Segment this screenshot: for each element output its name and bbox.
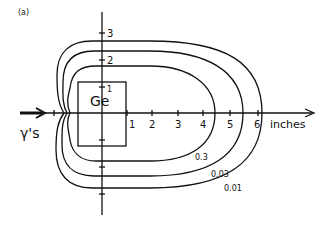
x-tick-label: 2	[149, 119, 155, 130]
diagram-canvas: γ's Ge 1 2 3 4 5 6 inches 1 2 3 0.3 0.03…	[0, 0, 330, 229]
x-tick-labels: 1 2 3 4 5 6	[129, 119, 260, 130]
beam-label: γ's	[20, 125, 39, 141]
y-tick-label: 3	[107, 28, 113, 39]
figure: (a)	[0, 0, 330, 229]
contour-0.01	[56, 41, 262, 188]
y-tick-labels: 1 2 3	[107, 28, 113, 94]
gamma-beam-arrow-icon	[20, 108, 45, 118]
contour-label-0.03: 0.03	[211, 170, 229, 179]
x-tick-label: 3	[175, 119, 181, 130]
y-tick-label: 2	[107, 55, 113, 66]
contour-labels: 0.3 0.03 0.01	[195, 153, 242, 193]
contour-label-0.01: 0.01	[224, 184, 242, 193]
y-tick-label: 1	[107, 85, 112, 94]
x-tick-label: 6	[254, 119, 260, 130]
contour-label-0.3: 0.3	[195, 153, 208, 162]
x-tick-label: 1	[129, 119, 135, 130]
detector-label: Ge	[90, 93, 109, 109]
x-tick-label: 5	[227, 119, 233, 130]
x-unit-label: inches	[270, 118, 306, 131]
panel-label: (a)	[18, 8, 29, 17]
x-tick-label: 4	[200, 119, 206, 130]
